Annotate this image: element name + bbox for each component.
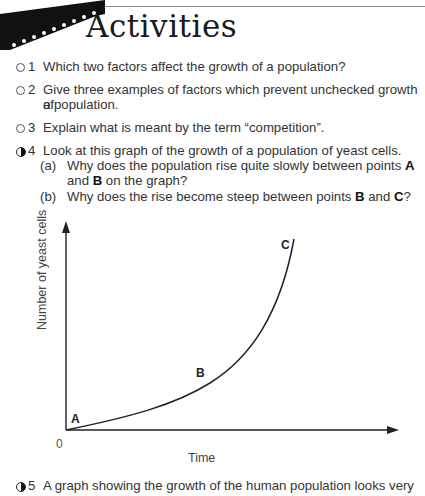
y-axis-label: Number of yeast cells (35, 210, 49, 330)
growth-curve (66, 239, 294, 430)
point-b-label: B (196, 366, 205, 380)
header-rule (100, 6, 425, 7)
half-circle-icon (16, 478, 26, 495)
x-axis-label: Time (188, 451, 215, 465)
half-circle-icon (16, 143, 26, 160)
open-circle-icon (16, 59, 25, 75)
x-axis-arrow-icon (387, 426, 399, 434)
point-a-label: A (71, 412, 80, 426)
open-circle-icon (16, 82, 25, 98)
point-c-label: C (281, 238, 290, 252)
origin-label: 0 (56, 437, 63, 451)
page-title: Activities (86, 8, 237, 44)
open-circle-icon (16, 120, 25, 136)
yeast-growth-graph (0, 215, 425, 455)
y-axis-arrow-icon (62, 221, 70, 233)
